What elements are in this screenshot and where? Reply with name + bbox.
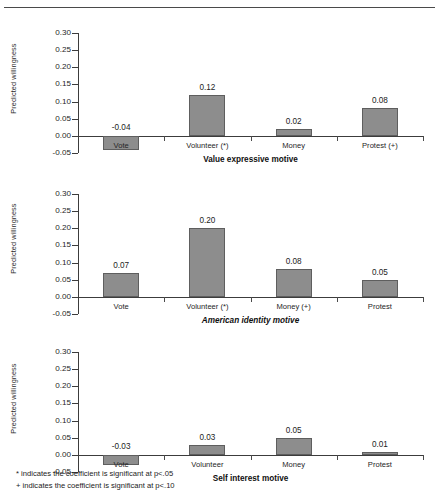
- x-tick-mark: [251, 297, 252, 302]
- bar: [189, 445, 225, 455]
- bar-value-label: -0.04: [91, 124, 151, 132]
- x-tick-mark: [423, 297, 424, 302]
- y-tick-label: 0.30: [37, 190, 71, 198]
- y-tick-label: 0.10: [37, 98, 71, 106]
- x-category-label: Volunteer (*): [157, 303, 257, 311]
- x-tick-mark: [251, 455, 252, 460]
- bar: [189, 95, 225, 136]
- y-tick-label: -0.05: [37, 149, 71, 157]
- y-tick-mark: [72, 280, 78, 281]
- y-tick-mark: [72, 33, 78, 34]
- bar-value-label: 0.05: [350, 269, 410, 277]
- y-tick-label: 0.15: [37, 80, 71, 88]
- bar-value-label: 0.03: [177, 434, 237, 442]
- bar-value-label: 0.07: [91, 262, 151, 270]
- bar: [189, 228, 225, 297]
- y-tick-label: 0.25: [37, 365, 71, 373]
- y-axis-label: Predicted willingness: [9, 179, 18, 299]
- bar-value-label: 0.08: [350, 97, 410, 105]
- y-tick-mark: [72, 369, 78, 370]
- y-tick-mark: [72, 228, 78, 229]
- bar-value-label: 0.02: [264, 118, 324, 126]
- y-tick-mark: [72, 386, 78, 387]
- bar-value-label: 0.01: [350, 441, 410, 449]
- y-tick-mark: [72, 50, 78, 51]
- y-tick-label: 0.10: [37, 417, 71, 425]
- x-category-label: Money: [244, 142, 344, 150]
- y-tick-label: 0.00: [37, 451, 71, 459]
- y-tick-mark: [72, 67, 78, 68]
- bar: [103, 273, 139, 297]
- y-tick-label: 0.15: [37, 241, 71, 249]
- chart-panel-american-identity: Predicted willingness0.300.250.200.150.1…: [0, 178, 439, 338]
- x-tick-mark: [337, 136, 338, 141]
- x-tick-mark: [251, 136, 252, 141]
- y-tick-mark: [72, 119, 78, 120]
- x-tick-mark: [337, 455, 338, 460]
- x-category-label: Volunteer (*): [157, 142, 257, 150]
- footnotes: * indicates the coefficient is significa…: [16, 468, 416, 491]
- x-category-label: Vote: [71, 303, 171, 311]
- y-tick-label: 0.05: [37, 434, 71, 442]
- bar: [276, 129, 312, 136]
- y-tick-mark: [72, 352, 78, 353]
- header-divider: [4, 7, 435, 8]
- y-tick-label: 0.05: [37, 276, 71, 284]
- x-category-label: Protest: [330, 303, 430, 311]
- y-tick-label: 0.30: [37, 29, 71, 37]
- bar-value-label: 0.20: [177, 217, 237, 225]
- x-tick-mark: [164, 297, 165, 302]
- y-tick-mark: [72, 438, 78, 439]
- bar-value-label: 0.08: [264, 258, 324, 266]
- x-category-label: Vote: [71, 142, 171, 150]
- y-tick-label: 0.15: [37, 399, 71, 407]
- bar: [362, 108, 398, 136]
- y-axis-label: Predicted willingness: [9, 339, 18, 459]
- y-tick-mark: [72, 102, 78, 103]
- y-tick-label: 0.20: [37, 224, 71, 232]
- panel-title: Value expressive motive: [78, 155, 423, 164]
- footnote-p05: * indicates the coefficient is significa…: [16, 468, 416, 480]
- bar-value-label: 0.05: [264, 427, 324, 435]
- y-tick-mark: [72, 263, 78, 264]
- x-tick-mark: [164, 455, 165, 460]
- y-tick-mark: [72, 194, 78, 195]
- panel-title: American identity motive: [78, 316, 423, 325]
- x-tick-mark: [423, 136, 424, 141]
- bar-value-label: -0.03: [91, 443, 151, 451]
- y-tick-label: 0.05: [37, 115, 71, 123]
- y-tick-mark: [72, 403, 78, 404]
- y-tick-mark: [72, 84, 78, 85]
- x-category-label: Money (+): [244, 303, 344, 311]
- bar: [276, 438, 312, 455]
- y-tick-label: 0.30: [37, 348, 71, 356]
- y-tick-label: 0.00: [37, 293, 71, 301]
- chart-panel-value-expressive: Predicted willingness0.300.250.200.150.1…: [0, 16, 439, 178]
- y-tick-label: 0.25: [37, 46, 71, 54]
- bar: [362, 280, 398, 297]
- x-category-label: Protest (+): [330, 142, 430, 150]
- bar: [276, 269, 312, 297]
- y-axis-label: Predicted willingness: [9, 19, 18, 139]
- x-tick-mark: [423, 455, 424, 460]
- x-tick-mark: [164, 136, 165, 141]
- bar-value-label: 0.12: [177, 84, 237, 92]
- bar: [362, 452, 398, 455]
- chart-panel-self-interest: Predicted willingness0.300.250.200.150.1…: [0, 338, 439, 460]
- y-tick-label: 0.20: [37, 382, 71, 390]
- y-tick-mark: [72, 421, 78, 422]
- y-tick-label: 0.25: [37, 207, 71, 215]
- y-tick-mark: [72, 245, 78, 246]
- y-tick-label: 0.00: [37, 132, 71, 140]
- y-tick-label: 0.10: [37, 259, 71, 267]
- x-tick-mark: [337, 297, 338, 302]
- y-tick-label: -0.05: [37, 310, 71, 318]
- footnote-p10: + indicates the coefficient is significa…: [16, 480, 416, 492]
- y-tick-label: 0.20: [37, 63, 71, 71]
- y-tick-mark: [72, 211, 78, 212]
